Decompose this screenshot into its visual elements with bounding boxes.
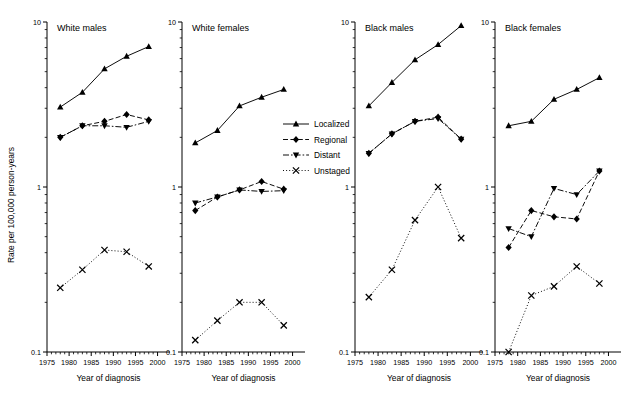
panel-white-males-x-axis-title: Year of diagnosis [77, 373, 141, 383]
panel-white-females-point-distant [281, 188, 287, 194]
panel-white-females-x-tick-label: 1985 [218, 358, 234, 367]
panel-black-males-point-unstaged [389, 267, 395, 273]
panel-black-males-x-axis-title: Year of diagnosis [387, 373, 451, 383]
panel-white-males-x-tick-label: 1990 [105, 358, 121, 367]
panel-black-females-x-tick-label: 2000 [600, 358, 616, 367]
panel-black-males-x-tick-label: 1985 [393, 358, 409, 367]
panel-black-females-point-distant [573, 192, 579, 198]
panel-black-females-x-axis-title: Year of diagnosis [526, 373, 590, 383]
panel-white-males-x-tick-label: 2000 [150, 358, 166, 367]
panel-white-males-x-tick-label: 1980 [61, 358, 77, 367]
panel-black-females-line-regional [509, 171, 600, 247]
panel-white-females-point-regional [259, 178, 265, 185]
panel-black-males-x-tick-label: 1995 [439, 358, 455, 367]
panel-white-males-point-unstaged [57, 285, 63, 291]
panel-white-males-point-unstaged [101, 247, 107, 253]
panel-black-males-x-tick-label: 1990 [416, 358, 432, 367]
panel-black-males-point-unstaged [435, 184, 441, 190]
legend-marker-regional [293, 136, 299, 143]
panel-black-females-point-regional [506, 244, 512, 251]
panel-white-females-line-unstaged [195, 302, 283, 340]
panel-black-females-y-tick-label: 1 [485, 183, 489, 192]
panel-black-females-point-distant [551, 186, 557, 192]
panel-white-females-point-unstaged [281, 322, 287, 328]
panel-black-females-point-regional [574, 215, 580, 222]
panel-white-females-point-localized [192, 140, 198, 146]
panel-black-females-x-tick-label: 1985 [532, 358, 548, 367]
panel-black-males-y-tick-label: 0.1 [339, 348, 349, 357]
panel-white-males-line-localized [60, 47, 148, 108]
panel-white-females-y-tick-label: 10 [168, 18, 176, 27]
panel-black-males-point-unstaged [412, 217, 418, 223]
panel-black-females-point-unstaged [528, 292, 534, 298]
multi-panel-chart: 1010.1197519801985199019952000White male… [0, 0, 625, 394]
legend-label-unstaged: Unstaged [314, 166, 350, 176]
panel-black-females-x-tick-label: 1975 [487, 358, 503, 367]
legend-label-distant: Distant [314, 150, 341, 160]
panel-white-females-point-unstaged [214, 317, 220, 323]
panel-black-females-point-regional [551, 213, 557, 220]
y-axis-title: Rate per 100,000 person-years [6, 147, 16, 263]
panel-black-males-point-localized [412, 56, 418, 62]
panel-black-females-y-tick-label: 10 [481, 18, 489, 27]
panel-white-males-x-tick-label: 1975 [39, 358, 55, 367]
panel-white-males-point-unstaged [79, 267, 85, 273]
legend-label-localized: Localized [314, 119, 350, 129]
panel-black-males-point-unstaged [458, 235, 464, 241]
panel-black-females-point-distant [528, 234, 534, 240]
panel-white-females-x-tick-label: 1975 [174, 358, 190, 367]
panel-white-females-x-axis-title: Year of diagnosis [212, 373, 276, 383]
panel-black-males-line-unstaged [369, 187, 461, 297]
panel-black-males-x-tick-label: 2000 [462, 358, 478, 367]
panel-white-males-point-unstaged [146, 263, 152, 269]
panel-black-females-x-tick-label: 1980 [510, 358, 526, 367]
panel-white-males-x-tick-label: 1985 [83, 358, 99, 367]
panel-white-females-point-localized [281, 86, 287, 92]
panel-black-females-point-unstaged [574, 263, 580, 269]
panel-black-females-y-tick-label: 0.1 [479, 348, 489, 357]
panel-white-males-point-regional [124, 111, 130, 118]
panel-black-females-x-tick-label: 1990 [555, 358, 571, 367]
panel-white-males-point-localized [146, 43, 152, 49]
panel-white-females-x-tick-label: 1980 [196, 358, 212, 367]
panel-black-males-point-unstaged [366, 294, 372, 300]
figure-root: 1010.1197519801985199019952000White male… [0, 0, 625, 394]
panel-white-males-y-tick-label: 10 [33, 18, 41, 27]
legend-marker-distant [293, 153, 299, 159]
panel-black-males-point-localized [458, 22, 464, 28]
panel-black-females-point-unstaged [596, 280, 602, 286]
panel-black-females-title: Black females [505, 23, 562, 33]
panel-white-females-point-unstaged [192, 337, 198, 343]
panel-black-males-x-tick-label: 1980 [370, 358, 386, 367]
panel-black-females-x-tick-label: 1995 [578, 358, 594, 367]
panel-black-females-point-unstaged [551, 283, 557, 289]
panel-white-males-point-distant [123, 125, 129, 131]
panel-black-males-x-tick-label: 1975 [347, 358, 363, 367]
panel-white-females-point-unstaged [236, 299, 242, 305]
legend-label-regional: Regional [314, 135, 347, 145]
panel-white-females-point-regional [192, 207, 198, 214]
panel-black-females-point-localized [573, 86, 579, 92]
panel-black-males-y-tick-label: 10 [341, 18, 349, 27]
panel-white-females-x-tick-label: 1995 [262, 358, 278, 367]
panel-black-males-line-localized [369, 26, 461, 106]
legend-marker-localized [293, 121, 299, 127]
panel-white-females-y-tick-label: 0.1 [166, 348, 176, 357]
panel-white-males-y-tick-label: 0.1 [31, 348, 41, 357]
panel-black-males-title: Black males [365, 23, 414, 33]
panel-black-males-y-tick-label: 1 [345, 183, 349, 192]
panel-white-males-title: White males [57, 23, 107, 33]
panel-white-females-title: White females [192, 23, 250, 33]
panel-white-females-line-localized [195, 89, 283, 142]
panel-black-males-point-localized [435, 41, 441, 47]
panel-white-males-y-tick-label: 1 [37, 183, 41, 192]
legend-marker-unstaged [293, 167, 299, 173]
panel-black-females-line-unstaged [509, 266, 600, 352]
panel-white-males-x-tick-label: 1995 [127, 358, 143, 367]
panel-white-males-point-localized [101, 65, 107, 71]
panel-black-females-line-distant [509, 171, 600, 237]
panel-white-females-point-distant [258, 189, 264, 195]
panel-white-females-y-tick-label: 1 [172, 183, 176, 192]
panel-white-males-point-localized [57, 104, 63, 110]
panel-white-females-point-distant [192, 201, 198, 207]
